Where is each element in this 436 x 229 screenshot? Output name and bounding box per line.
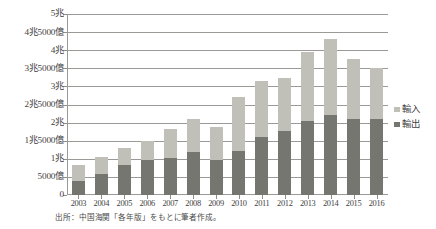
y-axis-label: 5兆 xyxy=(51,9,64,18)
y-axis-label: 3兆5000億 xyxy=(24,64,64,73)
bars-layer xyxy=(67,14,388,195)
legend-label-import: 輸入 xyxy=(402,105,420,114)
y-axis-label: 1兆5000億 xyxy=(24,136,64,145)
x-axis-label: 2013 xyxy=(296,199,319,208)
bar-column[interactable] xyxy=(301,52,314,195)
bar-column[interactable] xyxy=(118,148,131,195)
legend-swatch-import xyxy=(394,107,400,113)
x-axis-label: 2008 xyxy=(182,199,205,208)
bar-column[interactable] xyxy=(324,39,337,195)
bar-segment-import xyxy=(255,81,268,137)
bar-column[interactable] xyxy=(141,141,154,195)
y-axis-label: 2兆5000億 xyxy=(24,100,64,109)
bar-segment-export xyxy=(370,119,383,195)
y-axis-label: 1兆 xyxy=(51,154,64,163)
bar-column[interactable] xyxy=(95,157,108,195)
bar-segment-export xyxy=(95,174,108,195)
bar-segment-export xyxy=(255,137,268,195)
bar-segment-export xyxy=(187,152,200,195)
bar-segment-export xyxy=(232,151,245,195)
bar-segment-import xyxy=(118,148,131,164)
bar-segment-import xyxy=(164,129,177,158)
chart-legend: 輸入 輸出 xyxy=(394,102,420,132)
x-axis-label: 2003 xyxy=(67,199,90,208)
bar-segment-export xyxy=(164,158,177,195)
bar-segment-import xyxy=(347,59,360,118)
bar-segment-export xyxy=(301,121,314,195)
bar-segment-export xyxy=(72,181,85,195)
x-axis-label: 2005 xyxy=(113,199,136,208)
bar-segment-import xyxy=(324,39,337,115)
bar-column[interactable] xyxy=(210,127,223,195)
bar-segment-export xyxy=(278,131,291,195)
x-axis-label: 2012 xyxy=(273,199,296,208)
x-axis-label: 2004 xyxy=(90,199,113,208)
bar-segment-import xyxy=(232,97,245,151)
bar-segment-import xyxy=(370,68,383,119)
y-axis-label: 4兆 xyxy=(51,46,64,55)
bar-segment-import xyxy=(210,127,223,159)
y-axis-label: 5000億 xyxy=(38,172,64,181)
bar-segment-export xyxy=(141,160,154,195)
bar-column[interactable] xyxy=(232,97,245,195)
bar-column[interactable] xyxy=(370,68,383,195)
bar-segment-import xyxy=(187,119,200,152)
bar-segment-export xyxy=(324,115,337,195)
legend-swatch-export xyxy=(394,122,400,128)
bar-segment-import xyxy=(278,78,291,130)
x-axis-label: 2014 xyxy=(319,199,342,208)
bar-segment-import xyxy=(141,141,154,160)
y-axis-label: 2兆 xyxy=(51,118,64,127)
x-axis-label: 2011 xyxy=(250,199,273,208)
bar-column[interactable] xyxy=(72,165,85,195)
legend-item-export[interactable]: 輸出 xyxy=(394,117,420,132)
legend-item-import[interactable]: 輸入 xyxy=(394,102,420,117)
x-axis-label: 2009 xyxy=(205,199,228,208)
x-axis-label: 2006 xyxy=(136,199,159,208)
bar-segment-export xyxy=(347,119,360,195)
bar-segment-import xyxy=(95,157,108,174)
x-axis-label: 2007 xyxy=(159,199,182,208)
source-note: 出所：中国海関「各年版」をもとに筆者作成。 xyxy=(55,213,221,222)
x-axis-label: 2015 xyxy=(342,199,365,208)
legend-label-export: 輸出 xyxy=(402,120,420,129)
bar-column[interactable] xyxy=(347,59,360,195)
y-axis-label: 3兆 xyxy=(51,82,64,91)
bar-segment-import xyxy=(72,165,85,180)
x-axis-label: 2010 xyxy=(228,199,251,208)
y-axis-label: 0 xyxy=(60,190,64,199)
bar-segment-export xyxy=(118,165,131,195)
x-axis-label: 2016 xyxy=(365,199,388,208)
bar-column[interactable] xyxy=(187,119,200,195)
bar-column[interactable] xyxy=(164,129,177,195)
stacked-bar-chart: 05000億1兆1兆5000億2兆2兆5000億3兆3兆5000億4兆4兆500… xyxy=(0,0,436,229)
bar-column[interactable] xyxy=(278,78,291,195)
bar-segment-export xyxy=(210,160,223,195)
y-axis-label: 4兆5000億 xyxy=(24,28,64,37)
bar-segment-import xyxy=(301,52,314,121)
bar-column[interactable] xyxy=(255,81,268,195)
